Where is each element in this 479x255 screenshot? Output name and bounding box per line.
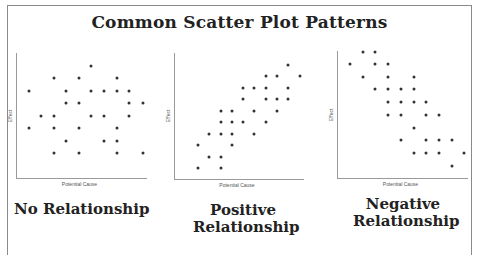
data-point [90,65,93,68]
data-point [53,127,56,130]
caption-negative-line2: Relationship [353,213,453,230]
data-point [208,133,211,136]
data-point [116,127,119,130]
data-point [220,121,223,124]
caption-positive-line2: Relationship [193,219,293,236]
data-point [265,98,268,101]
data-point [425,139,428,142]
data-point [425,114,428,117]
data-point [413,76,416,79]
data-point [425,152,428,155]
data-point [231,110,234,113]
data-point [208,156,211,159]
data-point [103,140,106,143]
data-point [53,115,56,118]
data-point [413,127,416,130]
data-point [116,77,119,80]
data-point [299,75,302,78]
data-point [90,90,93,93]
data-point [28,90,31,93]
data-point [231,133,234,136]
data-point [65,90,68,93]
data-point [220,156,223,159]
data-point [438,114,441,117]
data-point [253,87,256,90]
data-point [287,64,290,67]
data-point [413,88,416,91]
data-point [128,115,131,118]
x-axis-label: Potential Cause [383,181,418,187]
data-point [116,90,119,93]
data-point [349,63,352,66]
data-point [220,110,223,113]
data-point [400,114,403,117]
data-point [142,102,145,105]
x-axis [174,179,304,180]
data-point [78,77,81,80]
caption-negative-line1: Negative [353,196,453,213]
data-point [78,102,81,105]
y-axis-label: Effect [328,108,334,121]
data-point [463,152,466,155]
data-point [387,63,390,66]
data-point [374,88,377,91]
x-axis-label: Potential Cause [62,181,97,187]
caption-positive-relationship: Positive Relationship [193,202,293,236]
data-point [65,102,68,105]
data-point [413,152,416,155]
y-axis-label: Effect [165,110,171,123]
data-point [276,75,279,78]
y-axis-label: Effect [7,109,13,122]
data-point [425,101,428,104]
data-point [276,98,279,101]
x-axis [337,178,468,179]
data-point [231,144,234,147]
data-point [400,101,403,104]
data-point [287,87,290,90]
data-point [78,152,81,155]
data-point [220,167,223,170]
data-point [451,139,454,142]
caption-negative-relationship: Negative Relationship [353,196,453,230]
data-point [53,77,56,80]
caption-no-relationship-text: No Relationship [14,200,149,218]
data-point [242,98,245,101]
data-point [116,152,119,155]
data-point [265,87,268,90]
data-point [116,140,119,143]
data-point [374,51,377,54]
data-point [438,152,441,155]
data-point [128,90,131,93]
x-axis-label: Potential Cause [219,182,254,188]
caption-positive-line1: Positive [193,202,293,219]
data-point [40,115,43,118]
data-point [413,101,416,104]
data-point [242,121,245,124]
data-point [400,88,403,91]
y-axis [174,53,175,179]
data-point [242,87,245,90]
data-point [197,144,200,147]
data-point [265,75,268,78]
data-point [287,98,290,101]
data-point [231,121,234,124]
data-point [387,76,390,79]
data-point [90,115,93,118]
data-point [362,51,365,54]
data-point [53,152,56,155]
data-point [220,133,223,136]
figure-title: Common Scatter Plot Patterns [0,12,479,32]
data-point [253,110,256,113]
data-point [128,102,131,105]
data-point [103,115,106,118]
caption-no-relationship: No Relationship [14,201,149,218]
data-point [65,140,68,143]
data-point [451,165,454,168]
data-point [387,88,390,91]
data-point [197,167,200,170]
data-point [142,152,145,155]
data-point [374,63,377,66]
x-axis [16,178,147,179]
y-axis [16,53,17,178]
data-point [387,114,390,117]
